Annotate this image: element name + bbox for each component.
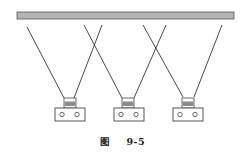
caption-prefix: 图 [100, 136, 111, 147]
caption-number: 9-5 [126, 136, 145, 147]
light-beam-line [134, 25, 166, 98]
figure-caption: 图9-5 [0, 134, 245, 148]
lamp-fixture-2 [114, 98, 144, 121]
ceiling-bar [17, 12, 234, 19]
figure-9-5: 图9-5 [0, 0, 245, 153]
light-beam-line [27, 27, 64, 98]
lamp-band [65, 102, 76, 107]
light-beam-line [143, 25, 183, 97]
lamp-band [123, 102, 134, 107]
light-fixtures [55, 98, 203, 121]
lamp-band [183, 102, 194, 107]
light-beam-line [194, 25, 222, 97]
lighting-diagram [0, 0, 245, 153]
light-beam-line [84, 25, 122, 98]
lamp-fixture-3 [173, 98, 203, 121]
light-beam-line [74, 25, 102, 98]
light-beams [27, 25, 222, 98]
lamp-fixture-1 [55, 98, 85, 121]
